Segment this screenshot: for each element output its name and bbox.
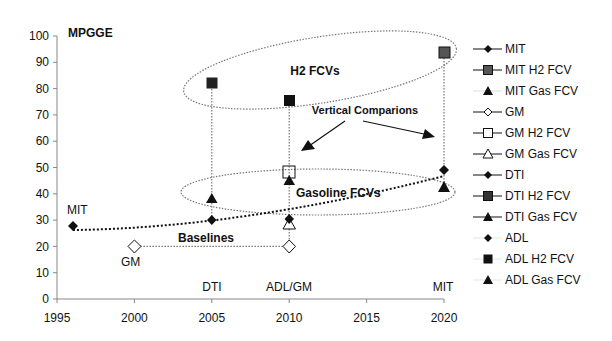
mit-2020-diamond-icon <box>439 165 449 175</box>
x-tick: 2005 <box>198 311 225 325</box>
dti-h2-2005-square-icon <box>207 78 218 89</box>
x-tick: 2020 <box>431 311 458 325</box>
x-tick: 2015 <box>353 311 380 325</box>
adl-gas-2010-triangle-icon <box>284 175 296 185</box>
legend-item-mit: MIT <box>473 42 526 56</box>
legend-item-gm-h2-fcv: GM H2 FCV <box>473 126 570 140</box>
y-tick: 10 <box>36 266 50 280</box>
gasoline-fcvs-label: Gasoline FCVs <box>296 186 381 200</box>
legend-item-gm: GM <box>473 105 524 119</box>
data-markers <box>68 47 450 253</box>
dti-axis-label: DTI <box>202 280 221 294</box>
gm-2000-diamond-icon <box>128 240 141 253</box>
y-axis-title: MPGGE <box>68 26 113 40</box>
mit-1996-diamond-icon <box>68 221 78 231</box>
square-open-icon <box>484 129 493 138</box>
legend-item-adl-gas-fcv: ADL Gas FCV <box>473 273 581 287</box>
svg-text:DTI Gas FCV: DTI Gas FCV <box>505 210 577 224</box>
mit-gas-2020-triangle-icon <box>438 181 450 192</box>
svg-text:ADL H2 FCV: ADL H2 FCV <box>505 252 574 266</box>
diamond-filled-icon <box>484 45 492 53</box>
svg-text:MIT: MIT <box>505 42 526 56</box>
svg-text:GM Gas FCV: GM Gas FCV <box>505 147 577 161</box>
svg-text:ADL Gas FCV: ADL Gas FCV <box>505 273 581 287</box>
mpgge-chart: 0 10 20 30 40 50 60 70 80 90 100 1995 20… <box>0 0 612 341</box>
legend-item-gm-gas-fcv: GM Gas FCV <box>473 147 577 161</box>
y-tick: 40 <box>36 187 50 201</box>
arrow-right-head <box>422 129 435 139</box>
svg-text:MIT H2 FCV: MIT H2 FCV <box>505 63 571 77</box>
y-tick-labels: 0 10 20 30 40 50 60 70 80 90 100 <box>29 29 49 306</box>
adlgm-axis-label: ADL/GM <box>266 280 312 294</box>
y-tick: 0 <box>42 292 49 306</box>
legend: MIT MIT H2 FCV MIT Gas FCV GM GM H2 FCV <box>473 42 581 287</box>
mit-1996-label: MIT <box>67 203 88 217</box>
mit-axis-label: MIT <box>433 280 454 294</box>
svg-text:GM H2 FCV: GM H2 FCV <box>505 126 570 140</box>
legend-item-dti-gas-fcv: DTI Gas FCV <box>473 210 577 224</box>
diamond-filled-icon <box>484 171 492 179</box>
y-tick: 60 <box>36 134 50 148</box>
svg-text:DTI H2 FCV: DTI H2 FCV <box>505 189 570 203</box>
adl-h2-2010-square-icon <box>284 95 295 106</box>
y-tick: 20 <box>36 240 50 254</box>
legend-item-mit-gas-fcv: MIT Gas FCV <box>473 84 578 98</box>
vertical-connectors <box>212 52 444 246</box>
legend-item-dti-h2-fcv: DTI H2 FCV <box>473 189 570 203</box>
svg-text:ADL: ADL <box>505 231 529 245</box>
legend-item-mit-h2-fcv: MIT H2 FCV <box>473 63 571 77</box>
gm-2000-label: GM <box>121 255 140 269</box>
x-tick-labels: 1995 2000 2005 2010 2015 2020 <box>44 311 458 325</box>
x-tick: 1995 <box>44 311 71 325</box>
adl-2010-diamond-icon <box>285 214 295 224</box>
dti-gas-2005-triangle-icon <box>206 193 218 203</box>
y-tick: 50 <box>36 161 50 175</box>
square-gray-icon <box>484 66 493 75</box>
vertical-comparisons-label: Vertical Comparions <box>312 104 418 116</box>
x-tick: 2000 <box>121 311 148 325</box>
diamond-filled-icon <box>484 234 492 242</box>
square-filled-icon <box>484 192 493 201</box>
diamond-open-icon <box>484 108 492 116</box>
trend-line <box>73 176 444 230</box>
dti-2005-diamond-icon <box>207 215 217 225</box>
y-tick: 80 <box>36 82 50 96</box>
arrow-left-head <box>301 140 315 151</box>
legend-item-adl: ADL <box>473 231 529 245</box>
svg-text:GM: GM <box>505 105 524 119</box>
svg-text:DTI: DTI <box>505 168 524 182</box>
axes <box>53 36 444 303</box>
y-tick: 90 <box>36 55 50 69</box>
y-tick: 100 <box>29 29 49 43</box>
arrow-right-shaft <box>363 121 424 134</box>
arrow-left-shaft <box>309 121 345 146</box>
y-tick: 30 <box>36 213 50 227</box>
mit-h2-2020-square-icon <box>439 47 450 58</box>
y-tick: 70 <box>36 108 50 122</box>
gm-2010-diamond-icon <box>283 240 296 253</box>
legend-item-dti: DTI <box>473 168 524 182</box>
baselines-label: Baselines <box>178 231 234 245</box>
h2-fcvs-label: H2 FCVs <box>290 64 340 78</box>
svg-text:MIT Gas FCV: MIT Gas FCV <box>505 84 578 98</box>
legend-item-adl-h2-fcv: ADL H2 FCV <box>473 252 574 266</box>
x-tick: 2010 <box>276 311 303 325</box>
square-filled-icon <box>484 255 493 264</box>
